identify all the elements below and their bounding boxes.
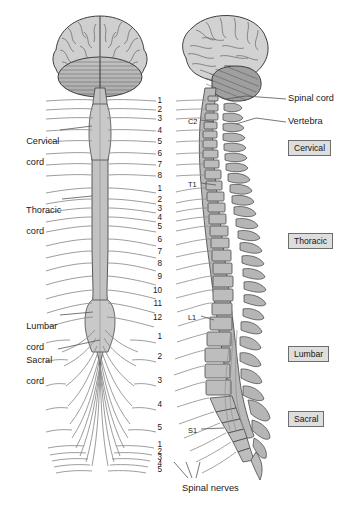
nerve-number-thoracic-1: 1	[146, 184, 162, 194]
marker-s1: S1	[188, 426, 197, 436]
nerve-number-thoracic-10: 10	[146, 286, 162, 296]
label-spinal-nerves: Spinal nerves	[182, 483, 239, 493]
label-thoracic-cord-line2: cord	[26, 226, 44, 236]
region-box-thoracic: Thoracic	[288, 233, 333, 249]
label-vertebra: Vertebra	[288, 116, 323, 126]
nerve-number-lumbar-2: 2	[146, 352, 162, 362]
label-sacral-cord: Sacral cord	[16, 345, 52, 397]
label-lumbar-cord-line1: Lumbar	[26, 321, 57, 331]
nerve-number-lumbar-3: 3	[146, 376, 162, 386]
region-box-sacral: Sacral	[288, 411, 324, 427]
nerve-number-cervical-3: 3	[146, 114, 162, 124]
nerve-number-thoracic-6: 6	[146, 235, 162, 245]
nerve-number-cervical-4: 4	[146, 126, 162, 136]
nerve-number-thoracic-7: 7	[146, 247, 162, 257]
spinal-cord-figure: Cervical cord Thoracic cord Lumbar cord …	[0, 0, 346, 508]
nerve-number-lumbar-4: 4	[146, 400, 162, 410]
label-sacral-cord-line2: cord	[26, 376, 44, 386]
nerve-number-thoracic-8: 8	[146, 259, 162, 269]
anatomy-illustration	[0, 0, 346, 508]
label-cervical-cord-line1: Cervical	[26, 136, 59, 146]
marker-l1: L1	[188, 313, 196, 323]
label-sacral-cord-line1: Sacral	[26, 355, 52, 365]
spinal-cord-anterior	[85, 86, 115, 370]
label-cervical-cord-line2: cord	[26, 157, 44, 167]
label-spinal-cord: Spinal cord	[288, 93, 334, 103]
label-cervical-cord: Cervical cord	[16, 126, 59, 178]
nerve-number-cervical-5: 5	[146, 137, 162, 147]
nerve-number-cervical-8: 8	[146, 171, 162, 181]
nerve-number-lumbar-5: 5	[146, 423, 162, 433]
nerve-number-thoracic-9: 9	[146, 272, 162, 282]
marker-t1: T1	[188, 180, 197, 190]
region-box-cervical: Cervical	[288, 140, 331, 156]
label-thoracic-cord: Thoracic cord	[16, 195, 61, 247]
nerve-number-thoracic-11: 11	[146, 299, 162, 309]
nerve-number-thoracic-5: 5	[146, 222, 162, 232]
nerve-number-sacral-5: 5	[146, 465, 162, 475]
nerve-number-cervical-6: 6	[146, 149, 162, 159]
nerve-number-lumbar-1: 1	[146, 332, 162, 342]
nerve-number-cervical-7: 7	[146, 160, 162, 170]
label-thoracic-cord-line1: Thoracic	[26, 205, 61, 215]
nerve-number-thoracic-12: 12	[146, 313, 162, 323]
marker-c2: C2	[188, 117, 197, 127]
region-box-lumbar: Lumbar	[288, 346, 329, 362]
